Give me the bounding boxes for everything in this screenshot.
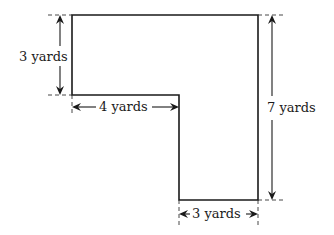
dimension-notch-width: 4 yards xyxy=(72,99,179,114)
label-notch-width: 4 yards xyxy=(99,99,148,114)
l-shape-diagram: 3 yards 4 yards 7 yards 3 yards xyxy=(0,0,334,235)
dimension-bottom-width: 3 yards xyxy=(179,206,258,221)
label-left-height: 3 yards xyxy=(19,49,68,64)
label-bottom-width: 3 yards xyxy=(192,206,241,221)
extension-lines xyxy=(48,15,285,225)
dimension-total-height: 7 yards xyxy=(267,15,316,200)
label-total-height: 7 yards xyxy=(267,100,316,115)
dimension-left-height: 3 yards xyxy=(19,15,68,95)
